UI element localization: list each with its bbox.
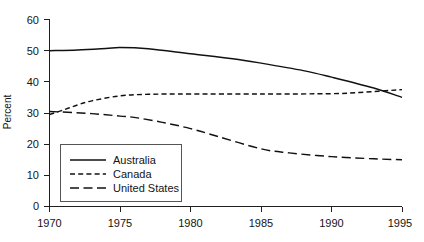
x-tick-label-1985: 1985 [249, 217, 273, 229]
y-tick-label-50: 50 [27, 45, 39, 57]
x-tick-label-1995: 1995 [388, 217, 412, 229]
x-tick-label-1990: 1990 [319, 217, 343, 229]
x-tick-label-1970: 1970 [37, 217, 61, 229]
y-tick-label-30: 30 [27, 107, 39, 119]
y-axis-ticks [44, 20, 50, 207]
x-axis-ticks [50, 207, 403, 213]
chart-canvas: 0 10 20 30 40 50 60 1970 1975 1980 1985 … [0, 0, 424, 242]
y-axis-title: Percent [2, 95, 13, 130]
legend-label-australia: Australia [113, 154, 157, 166]
legend: Australia Canada United States [61, 145, 182, 202]
legend-label-canada: Canada [113, 168, 152, 180]
y-tick-label-0: 0 [33, 200, 39, 212]
y-tick-label-60: 60 [27, 14, 39, 26]
line-chart: 0 10 20 30 40 50 60 1970 1975 1980 1985 … [0, 0, 424, 242]
series-line-australia [50, 48, 403, 98]
y-tick-label-40: 40 [27, 76, 39, 88]
y-tick-label-20: 20 [27, 138, 39, 150]
y-tick-label-10: 10 [27, 169, 39, 181]
x-tick-label-1980: 1980 [178, 217, 202, 229]
series-line-canada [50, 90, 403, 115]
x-tick-label-1975: 1975 [108, 217, 132, 229]
legend-label-united-states: United States [113, 182, 180, 194]
